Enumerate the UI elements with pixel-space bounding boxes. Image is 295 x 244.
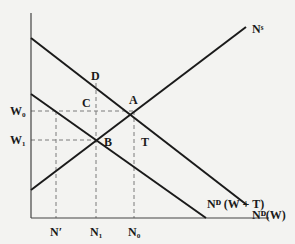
point-a-label: A: [129, 93, 138, 107]
w0-label: W₀: [10, 104, 26, 118]
point-t-label: T: [141, 135, 149, 149]
point-b-label: B: [104, 135, 112, 149]
supply-curve: [31, 27, 246, 190]
n1-label: N₁: [90, 225, 103, 239]
point-c-label: C: [82, 96, 91, 110]
nprime-label: N′: [50, 225, 62, 239]
w1-label: W₁: [10, 133, 26, 147]
axes: [31, 13, 269, 218]
labor-market-diagram: Nˢ Nᴰ(W) Nᴰ (W + T) A B C D T W₀ W₁ N′ N…: [0, 0, 295, 244]
point-d-label: D: [91, 69, 100, 83]
diagram-canvas: Nˢ Nᴰ(W) Nᴰ (W + T) A B C D T W₀ W₁ N′ N…: [0, 0, 295, 244]
n0-label: N₀: [128, 225, 141, 239]
demand-curve-w: [31, 38, 247, 205]
demand-curve-w-plus-t: [31, 94, 206, 218]
supply-label: Nˢ: [252, 22, 264, 36]
demand-wt-label: Nᴰ (W + T): [207, 197, 264, 211]
curves: [31, 27, 247, 218]
